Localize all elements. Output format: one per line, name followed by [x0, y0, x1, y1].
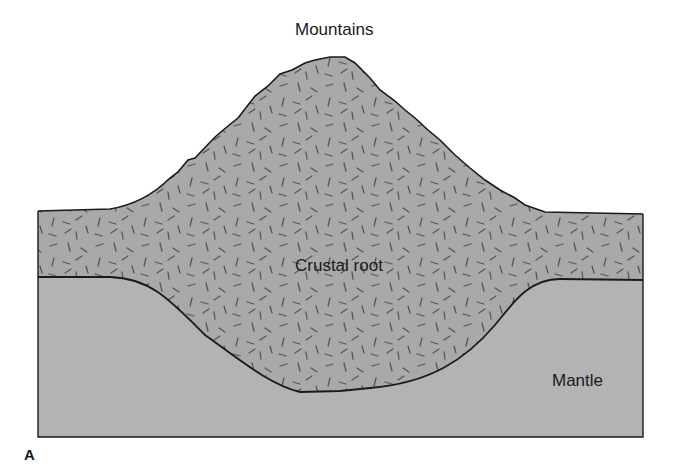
crustal-root-label: Crustal root — [295, 256, 383, 276]
crustal-root-diagram — [0, 0, 681, 470]
mantle-label: Mantle — [552, 371, 603, 391]
mountains-label: Mountains — [295, 20, 373, 40]
panel-label: A — [24, 446, 35, 463]
